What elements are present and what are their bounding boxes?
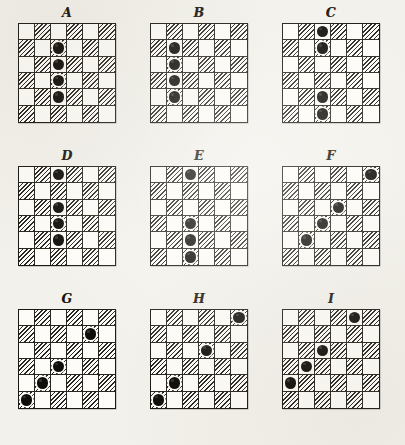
square-r1-c1[interactable] (19, 310, 35, 326)
checker-piece[interactable] (333, 202, 345, 214)
checker-piece[interactable] (169, 42, 181, 54)
square-r5-c2[interactable] (35, 375, 51, 391)
checker-piece[interactable] (317, 26, 329, 38)
checker-piece[interactable] (53, 91, 65, 103)
square-r5-c4[interactable] (67, 89, 83, 105)
square-r6-c5[interactable] (347, 392, 363, 408)
square-r5-c1[interactable] (19, 375, 35, 391)
square-r6-c4[interactable] (331, 392, 347, 408)
checker-piece[interactable] (53, 361, 65, 373)
square-r1-c2[interactable] (299, 24, 315, 40)
square-r5-c5[interactable] (347, 375, 363, 391)
square-r2-c5[interactable] (215, 40, 231, 56)
square-r4-c1[interactable] (151, 216, 167, 232)
square-r1-c4[interactable] (331, 167, 347, 183)
square-r1-c3[interactable] (183, 167, 199, 183)
square-r1-c1[interactable] (151, 167, 167, 183)
square-r1-c4[interactable] (199, 310, 215, 326)
checker-piece[interactable] (153, 394, 165, 406)
square-r5-c2[interactable] (167, 375, 183, 391)
square-r3-c6[interactable] (363, 57, 379, 73)
square-r6-c3[interactable] (183, 249, 199, 265)
square-r2-c5[interactable] (215, 183, 231, 199)
square-r4-c3[interactable] (183, 359, 199, 375)
square-r2-c1[interactable] (151, 326, 167, 342)
square-r3-c2[interactable] (167, 343, 183, 359)
checker-piece[interactable] (201, 345, 213, 357)
square-r4-c4[interactable] (199, 73, 215, 89)
square-r1-c5[interactable] (83, 167, 99, 183)
square-r2-c4[interactable] (331, 326, 347, 342)
square-r6-c1[interactable] (151, 249, 167, 265)
square-r1-c2[interactable] (167, 167, 183, 183)
square-r2-c3[interactable] (315, 183, 331, 199)
square-r6-c4[interactable] (67, 106, 83, 122)
square-r3-c2[interactable] (167, 57, 183, 73)
square-r4-c6[interactable] (363, 359, 379, 375)
square-r1-c3[interactable] (51, 310, 67, 326)
checker-piece[interactable] (185, 218, 197, 230)
square-r6-c6[interactable] (99, 392, 115, 408)
square-r3-c1[interactable] (283, 343, 299, 359)
square-r5-c6[interactable] (231, 232, 247, 248)
square-r3-c3[interactable] (51, 57, 67, 73)
square-r2-c3[interactable] (51, 326, 67, 342)
square-r2-c5[interactable] (347, 40, 363, 56)
checker-piece[interactable] (317, 218, 329, 230)
square-r6-c2[interactable] (299, 392, 315, 408)
square-r2-c4[interactable] (67, 183, 83, 199)
square-r5-c4[interactable] (199, 89, 215, 105)
square-r6-c3[interactable] (51, 106, 67, 122)
square-r5-c5[interactable] (215, 232, 231, 248)
square-r1-c2[interactable] (299, 167, 315, 183)
square-r1-c6[interactable] (231, 310, 247, 326)
square-r6-c6[interactable] (99, 249, 115, 265)
square-r2-c3[interactable] (183, 326, 199, 342)
square-r1-c6[interactable] (231, 167, 247, 183)
square-r1-c6[interactable] (363, 167, 379, 183)
square-r6-c3[interactable] (183, 106, 199, 122)
square-r6-c5[interactable] (347, 106, 363, 122)
checker-piece[interactable] (301, 361, 313, 373)
checker-piece[interactable] (185, 234, 197, 246)
square-r6-c3[interactable] (315, 106, 331, 122)
square-r1-c4[interactable] (67, 24, 83, 40)
square-r1-c3[interactable] (315, 167, 331, 183)
square-r4-c4[interactable] (331, 359, 347, 375)
square-r4-c6[interactable] (99, 359, 115, 375)
square-r6-c4[interactable] (331, 106, 347, 122)
square-r5-c6[interactable] (231, 375, 247, 391)
square-r3-c1[interactable] (19, 200, 35, 216)
square-r4-c5[interactable] (215, 359, 231, 375)
square-r1-c1[interactable] (151, 310, 167, 326)
square-r6-c5[interactable] (215, 249, 231, 265)
square-r2-c1[interactable] (283, 183, 299, 199)
checker-piece[interactable] (53, 218, 65, 230)
square-r5-c3[interactable] (315, 89, 331, 105)
square-r5-c2[interactable] (299, 375, 315, 391)
square-r3-c3[interactable] (315, 200, 331, 216)
square-r4-c3[interactable] (51, 73, 67, 89)
square-r1-c1[interactable] (283, 24, 299, 40)
square-r4-c2[interactable] (299, 359, 315, 375)
square-r5-c5[interactable] (347, 89, 363, 105)
square-r6-c4[interactable] (199, 249, 215, 265)
square-r4-c2[interactable] (299, 73, 315, 89)
square-r1-c4[interactable] (199, 24, 215, 40)
square-r6-c3[interactable] (315, 392, 331, 408)
square-r3-c4[interactable] (67, 200, 83, 216)
square-r5-c2[interactable] (35, 232, 51, 248)
square-r3-c6[interactable] (231, 200, 247, 216)
square-r4-c5[interactable] (83, 216, 99, 232)
square-r2-c1[interactable] (19, 40, 35, 56)
square-r3-c6[interactable] (99, 200, 115, 216)
square-r1-c5[interactable] (215, 310, 231, 326)
square-r5-c2[interactable] (167, 89, 183, 105)
square-r2-c5[interactable] (83, 183, 99, 199)
square-r4-c6[interactable] (363, 216, 379, 232)
square-r5-c5[interactable] (215, 89, 231, 105)
square-r5-c4[interactable] (67, 375, 83, 391)
square-r5-c4[interactable] (331, 375, 347, 391)
checker-piece[interactable] (169, 75, 181, 87)
square-r3-c5[interactable] (347, 200, 363, 216)
